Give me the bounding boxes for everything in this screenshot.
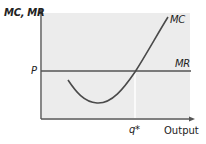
- q-star-label: q*: [129, 125, 140, 135]
- y-axis-label: MC, MR: [4, 8, 44, 18]
- x-axis-arrow-icon: [189, 117, 195, 122]
- mc-label: MC: [170, 15, 185, 25]
- mr-label: MR: [175, 59, 190, 69]
- x-axis-label: Output: [164, 126, 199, 136]
- plot-area: [42, 13, 190, 118]
- price-label: P: [31, 66, 37, 76]
